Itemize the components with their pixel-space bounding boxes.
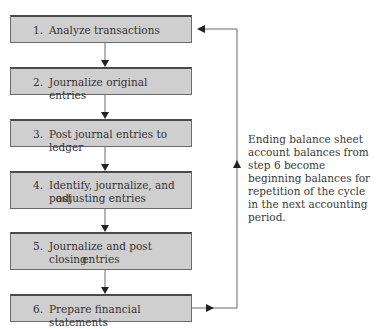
step-label: Post journal entries to ledger: [49, 128, 185, 154]
step-label: Prepare financial statements: [49, 303, 185, 329]
arrow-down-icon: [101, 225, 109, 232]
step-5-box: 5. Journalize and post closing entries: [10, 232, 192, 270]
arrow-left-icon: [197, 25, 205, 33]
step-number: 5.: [33, 240, 43, 253]
step-number: 4.: [33, 179, 43, 192]
step-number: 2.: [33, 76, 43, 89]
step-1-box: 1. Analyze transactions: [10, 15, 192, 43]
step-3-box: 3. Post journal entries to ledger: [10, 119, 192, 147]
arrow-down-icon: [101, 112, 109, 119]
step-label-line2: entries: [11, 253, 191, 266]
arrow-down-icon: [101, 287, 109, 294]
step-label: Analyze transactions: [49, 24, 185, 37]
step-label: Journalize original entries: [49, 76, 185, 102]
step-number: 3.: [33, 128, 43, 141]
step-number: 1.: [33, 24, 43, 37]
step-6-box: 6. Prepare financial statements: [10, 294, 192, 322]
step-number: 6.: [33, 303, 43, 316]
arrow-down-icon: [101, 60, 109, 67]
cycle-note: Ending balance sheet account balances fr…: [248, 133, 378, 224]
arrow-down-icon: [101, 164, 109, 171]
arrow-up-icon: [233, 160, 241, 168]
step-2-box: 2. Journalize original entries: [10, 67, 192, 95]
step-label-line2: adjusting entries: [11, 192, 191, 205]
step-4-box: 4. Identify, journalize, and post adjust…: [10, 171, 192, 209]
arrow-right-icon: [206, 304, 214, 312]
